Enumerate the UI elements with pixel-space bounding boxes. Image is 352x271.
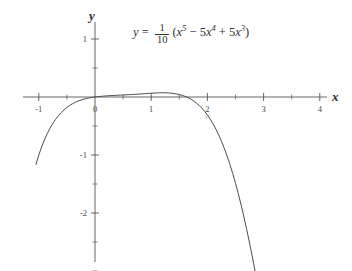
- x-tick-label-3: 3: [261, 104, 265, 114]
- axis-tick-labels: -1012341-1-2: [35, 34, 322, 218]
- fraction-numerator: 1: [155, 23, 170, 34]
- term1-exponent: 5: [182, 23, 186, 33]
- fraction-denominator: 10: [155, 35, 170, 46]
- x-tick-label-0: 0: [93, 104, 97, 114]
- y-tick-label--1: -1: [80, 150, 87, 160]
- x-tick-label-4: 4: [318, 104, 323, 114]
- stray-mark: s: [205, 114, 207, 120]
- y-axis-label: y: [87, 8, 95, 23]
- term2-exponent: 4: [211, 23, 215, 33]
- operator-2: +: [219, 25, 226, 39]
- paren-close: ): [245, 25, 249, 39]
- function-plot: -1012341-1-2 x y y = 1 10 (x5 − 5x4 + 5x…: [0, 0, 352, 271]
- y-tick-label--2: -2: [80, 208, 87, 218]
- x-tick-label-1: 1: [149, 104, 153, 114]
- y-tick-label-1: 1: [83, 34, 87, 44]
- equation-equals: =: [142, 25, 149, 39]
- function-curve: [36, 93, 255, 271]
- axes-group: [23, 22, 327, 262]
- one-tenth-fraction: 1 10: [155, 23, 170, 45]
- x-axis-label: x: [331, 89, 339, 104]
- x-tick-label--1: -1: [35, 104, 42, 114]
- equation-annotation: y = 1 10 (x5 − 5x4 + 5x3): [133, 23, 249, 45]
- operator-1: −: [189, 25, 196, 39]
- equation-lhs: y: [133, 25, 139, 39]
